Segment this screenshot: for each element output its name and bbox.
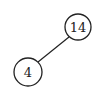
tree-node-4: 4 [14, 58, 42, 86]
node-label: 4 [24, 65, 32, 80]
edge-14-to-4 [38, 37, 69, 62]
binary-tree-diagram: 14 4 [0, 0, 102, 93]
node-label: 14 [70, 20, 87, 35]
tree-node-14: 14 [65, 14, 91, 40]
